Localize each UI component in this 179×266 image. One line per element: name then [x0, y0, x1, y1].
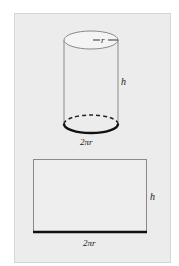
- unrolled-rectangle: h 2πr: [33, 160, 155, 249]
- cylinder: r h 2πr: [64, 31, 126, 147]
- cylinder-unrolling-diagram: r h 2πr h 2πr: [0, 0, 179, 266]
- cylinder-bottom-back-dashed: [64, 115, 118, 124]
- circumference-label: 2πr: [80, 137, 93, 147]
- cylinder-height-label: h: [121, 76, 126, 87]
- rectangle-height-label: h: [150, 191, 155, 202]
- rectangle-width-label: 2πr: [83, 238, 96, 248]
- cylinder-bottom-front-thick: [64, 124, 118, 133]
- rectangle-outline: [34, 160, 147, 233]
- radius-label: r: [101, 35, 105, 45]
